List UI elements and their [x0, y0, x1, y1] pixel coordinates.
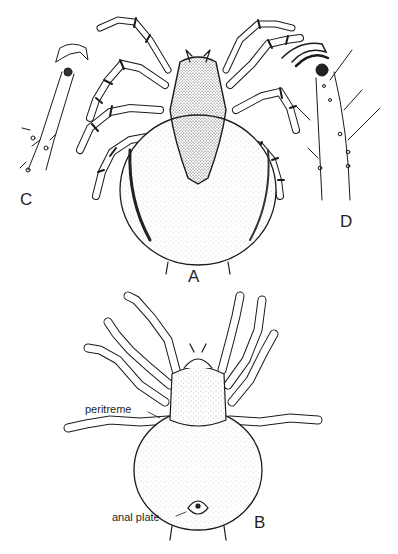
annotation-anal-plate: anal plate: [112, 511, 160, 523]
panel-a-drawing: [80, 18, 300, 274]
panel-label-d: D: [340, 212, 352, 232]
panel-label-c: C: [20, 190, 32, 210]
panel-label-a: A: [188, 267, 199, 287]
panel-b-drawing: [68, 296, 318, 540]
panel-label-b: B: [254, 513, 265, 533]
annotation-peritreme: peritreme: [85, 403, 131, 415]
